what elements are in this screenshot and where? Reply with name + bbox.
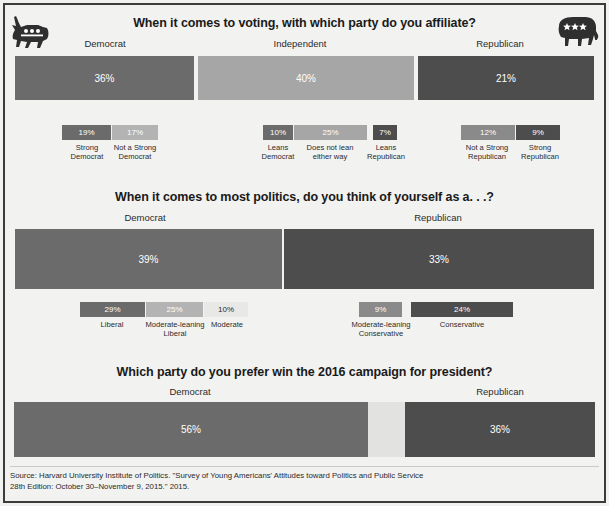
section-2-main-bar: 39% 33% [14,228,595,290]
section-2-subbar-moderate-leaning-conservative: 9% [359,302,402,317]
section-1-sublabel-leans-republican: Leans Republican [367,143,405,162]
section-1-subbar-leans-republican: 7% [373,125,397,140]
section-1-sublabel-strong-democrat: Strong Democrat [71,143,104,162]
section-1-column-label-independent: Independent [274,38,327,49]
section-2-column-label-democrat: Democrat [124,212,165,223]
section-1-segment-republican: 21% [417,55,595,101]
section-1-segment-independent: 40% [197,55,415,101]
section-1-subbar-not-strong-democrat: 17% [112,125,158,140]
section-1-subbar-leans-democrat: 10% [263,125,293,140]
section-2-sublabel-liberal: Liberal [101,320,124,329]
section-1-sublabel-strong-republican: Strong Republican [521,143,559,162]
section-1-column-label-republican: Republican [476,38,524,49]
section-1-sublabel-does-not-lean: Does not lean either way [307,143,354,162]
section-1-subbar-not-strong-republican: 12% [461,125,515,140]
section-1-sublabel-leans-democrat: Leans Democrat [262,143,295,162]
section-2-sublabel-moderate-leaning-liberal: Moderate-leaning Liberal [145,320,204,339]
section-3-segment-democrat: 56% [14,402,368,457]
section-3-title: Which party do you prefer win the 2016 c… [0,365,609,379]
section-2-sublabel-moderate: Moderate [211,320,243,329]
source-divider [10,466,599,467]
section-1-column-label-democrat: Democrat [84,38,125,49]
section-2-sublabel-conservative: Conservative [440,320,484,329]
section-3-column-label-democrat: Democrat [169,386,210,397]
source-note: Source: Harvard University Institute of … [10,471,423,492]
section-2-subbar-moderate-leaning-liberal: 25% [146,302,203,317]
section-2-segment-republican: 33% [283,228,595,290]
section-1-segment-democrat: 36% [14,55,195,101]
section-1-subbar-strong-democrat: 19% [62,125,111,140]
section-1-main-bar: 36% 40% 21% [14,55,595,101]
section-2-sublabel-moderate-leaning-conservative: Moderate-leaning Conservative [351,320,410,339]
section-3-column-label-republican: Republican [476,386,524,397]
source-line-1: Source: Harvard University Institute of … [10,471,423,482]
section-3-segment-republican: 36% [405,402,595,457]
section-2-column-label-republican: Republican [414,212,462,223]
source-line-2: 28th Edition: October 30–November 9, 201… [10,482,423,493]
infographic-page: When it comes to voting, with which part… [0,0,609,506]
section-1-subbar-strong-republican: 9% [516,125,560,140]
section-1-title: When it comes to voting, with which part… [0,16,609,30]
section-2-subbar-conservative: 24% [411,302,513,317]
section-2-subbar-liberal: 29% [80,302,145,317]
section-2-title: When it comes to most politics, do you t… [0,190,609,204]
section-3-segment-gap [368,402,405,457]
section-3-main-bar: 56% 36% [14,402,595,457]
section-1-sublabel-not-strong-republican: Not a Strong Republican [466,143,509,162]
section-2-subbar-moderate: 10% [204,302,248,317]
section-1-subbar-does-not-lean: 25% [294,125,367,140]
section-2-segment-democrat: 39% [14,228,283,290]
section-1-sublabel-not-strong-democrat: Not a Strong Democrat [114,143,157,162]
